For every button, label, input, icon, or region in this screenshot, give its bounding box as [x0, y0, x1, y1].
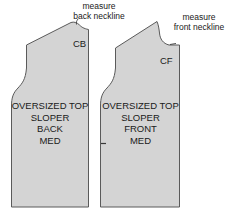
front-piece-sloper: SLOPER [101, 112, 180, 124]
annotation-back-neckline-line2: back neckline [62, 11, 136, 21]
center-front-label: CF [160, 55, 173, 66]
annotation-measure-back-neckline: measure back neckline [62, 1, 136, 21]
back-piece-side: BACK [11, 123, 89, 135]
back-piece-sloper: SLOPER [11, 112, 89, 124]
front-piece-size: MED [101, 135, 180, 147]
back-piece-size: MED [11, 135, 89, 147]
annotation-front-neckline-line2: front neckline [164, 22, 234, 32]
back-piece-title: OVERSIZED TOP [11, 100, 89, 112]
pattern-diagram-canvas: measure back neckline measure front neck… [0, 0, 234, 219]
front-piece-title: OVERSIZED TOP [101, 100, 180, 112]
front-piece-side: FRONT [101, 123, 180, 135]
center-back-label: CB [73, 38, 86, 49]
annotation-measure-front-neckline: measure front neckline [164, 12, 234, 32]
front-neckline-leader-line [170, 44, 176, 45]
back-piece-label-block: OVERSIZED TOP SLOPER BACK MED [11, 100, 89, 146]
front-piece-label-block: OVERSIZED TOP SLOPER FRONT MED [101, 100, 180, 146]
annotation-back-neckline-line1: measure [62, 1, 136, 11]
annotation-front-neckline-line1: measure [164, 12, 234, 22]
